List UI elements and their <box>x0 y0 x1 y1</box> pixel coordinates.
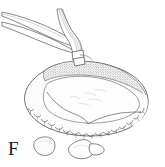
fragment-small-left <box>34 137 55 156</box>
figure-panel: F <box>0 0 165 167</box>
probe-tip <box>73 57 85 66</box>
panel-label: F <box>8 139 19 159</box>
figure-illustration <box>0 0 165 167</box>
